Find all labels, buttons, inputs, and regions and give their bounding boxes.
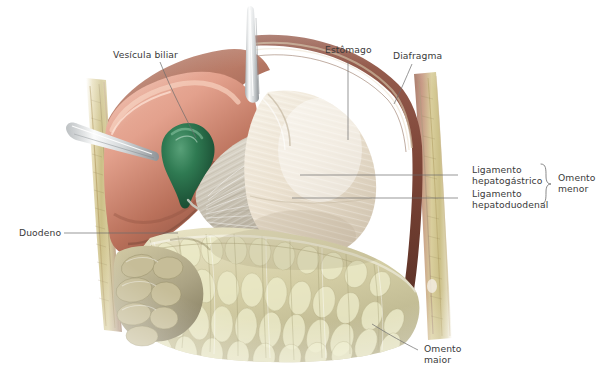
label-duodeno: Duodeno [19, 227, 61, 238]
label-estomago: Estômago [325, 44, 372, 55]
label-omento-menor: Omento menor [558, 172, 595, 195]
label-omento-maior: Omento maior [424, 343, 461, 366]
label-diafragma: Diafragma [393, 50, 442, 61]
label-vesicula-biliar: Vesícula biliar [113, 49, 178, 60]
label-ligamento-hepatoduodenal: Ligamento hepatoduodenal [472, 188, 548, 211]
label-ligamento-hepatogastrico: Ligamento hepatogástrico [472, 164, 542, 187]
